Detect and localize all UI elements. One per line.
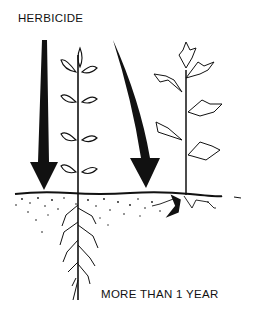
young-plant bbox=[60, 48, 98, 300]
straight-arrow bbox=[30, 40, 58, 190]
diagram-illustration bbox=[0, 0, 265, 325]
older-plant bbox=[152, 42, 222, 216]
curved-arrow bbox=[113, 40, 160, 188]
duration-caption: MORE THAN 1 YEAR bbox=[101, 288, 219, 300]
herbicide-diagram: HERBICIDE bbox=[0, 0, 265, 325]
soil bbox=[15, 192, 241, 233]
